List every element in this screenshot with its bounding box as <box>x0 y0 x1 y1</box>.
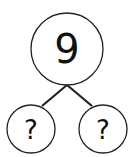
number-bond-diagram: 9 ? ? <box>0 0 136 157</box>
part-circle-left: ? <box>7 105 55 153</box>
whole-circle: 9 <box>31 13 103 85</box>
part-left-value: ? <box>24 115 38 145</box>
connector-right <box>67 85 92 106</box>
part-right-value: ? <box>96 115 110 145</box>
connector-left <box>42 85 67 106</box>
whole-value: 9 <box>54 26 79 72</box>
part-circle-right: ? <box>79 105 127 153</box>
